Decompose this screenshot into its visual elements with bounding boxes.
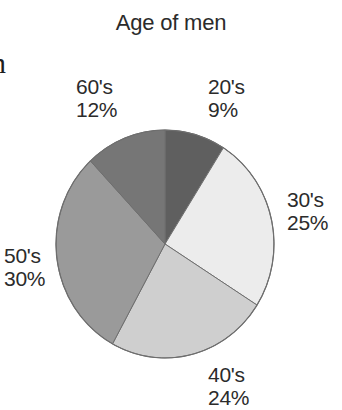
slice-category: 50's xyxy=(4,244,45,267)
slice-category: 60's xyxy=(76,75,117,98)
slice-label-40s: 40's 24% xyxy=(208,363,249,409)
pie-slices xyxy=(56,130,274,358)
slice-category: 40's xyxy=(208,363,249,386)
slice-label-50s: 50's 30% xyxy=(4,244,45,290)
slice-percent: 9% xyxy=(208,98,245,121)
slice-label-20s: 20's 9% xyxy=(208,75,245,121)
slice-percent: 12% xyxy=(76,98,117,121)
slice-label-60s: 60's 12% xyxy=(76,75,117,121)
slice-label-30s: 30's 25% xyxy=(287,188,328,234)
slice-percent: 24% xyxy=(208,386,249,409)
slice-percent: 25% xyxy=(287,211,328,234)
slice-category: 20's xyxy=(208,75,245,98)
slice-percent: 30% xyxy=(4,267,45,290)
slice-category: 30's xyxy=(287,188,328,211)
